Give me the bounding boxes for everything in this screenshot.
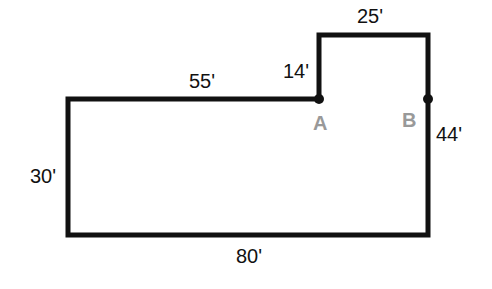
dim-right-side: 44' xyxy=(436,123,462,145)
dim-bottom: 80' xyxy=(236,245,262,267)
plan-outline xyxy=(68,35,428,235)
point-b-marker xyxy=(423,94,433,104)
point-a-label: A xyxy=(313,112,327,134)
dim-notch-height: 14' xyxy=(283,60,309,82)
floor-plan-diagram: 25' 14' 55' 44' 30' 80' A B xyxy=(0,0,492,289)
point-a-marker xyxy=(314,94,324,104)
dim-top-notch: 25' xyxy=(357,5,383,27)
point-b-label: B xyxy=(402,109,416,131)
diagram-svg: 25' 14' 55' 44' 30' 80' A B xyxy=(0,0,492,289)
dim-top-left: 55' xyxy=(189,70,215,92)
dim-left-side: 30' xyxy=(30,165,56,187)
